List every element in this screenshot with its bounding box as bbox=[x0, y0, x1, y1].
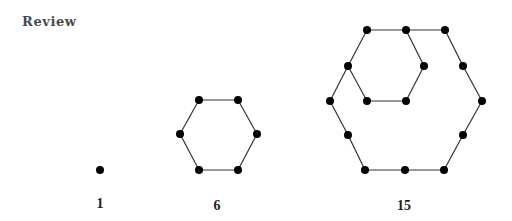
figure-dots bbox=[96, 26, 486, 174]
edge-line bbox=[238, 100, 257, 134]
hexagonal-numbers-diagram bbox=[0, 0, 512, 221]
dot bbox=[361, 166, 369, 174]
dot bbox=[478, 97, 486, 105]
edge-line bbox=[463, 101, 482, 135]
dot bbox=[234, 96, 242, 104]
dot bbox=[459, 131, 467, 139]
dot bbox=[195, 96, 203, 104]
dot bbox=[176, 130, 184, 138]
edge-line bbox=[348, 66, 367, 101]
dot bbox=[420, 62, 428, 70]
dot bbox=[253, 130, 261, 138]
edge-line bbox=[406, 30, 424, 66]
edge-line bbox=[445, 30, 463, 66]
dot bbox=[459, 62, 467, 70]
edge-line bbox=[348, 30, 367, 66]
dot bbox=[401, 166, 409, 174]
figure-count-label: 15 bbox=[397, 198, 411, 214]
dot bbox=[234, 166, 242, 174]
dot bbox=[96, 166, 104, 174]
figure-count-label: 1 bbox=[97, 196, 104, 212]
edge-line bbox=[444, 135, 463, 170]
edge-line bbox=[330, 66, 348, 101]
dot bbox=[344, 62, 352, 70]
edge-line bbox=[238, 134, 257, 170]
dot bbox=[441, 26, 449, 34]
dot bbox=[363, 26, 371, 34]
edge-line bbox=[463, 66, 482, 101]
dot bbox=[402, 26, 410, 34]
edge-line bbox=[330, 101, 348, 135]
dot bbox=[402, 97, 410, 105]
edge-line bbox=[348, 135, 365, 170]
dot bbox=[195, 166, 203, 174]
edge-line bbox=[406, 66, 424, 101]
dot bbox=[344, 131, 352, 139]
dot bbox=[326, 97, 334, 105]
figure-count-label: 6 bbox=[214, 198, 221, 214]
dot bbox=[440, 166, 448, 174]
edge-line bbox=[180, 134, 199, 170]
edge-line bbox=[180, 100, 199, 134]
dot bbox=[363, 97, 371, 105]
